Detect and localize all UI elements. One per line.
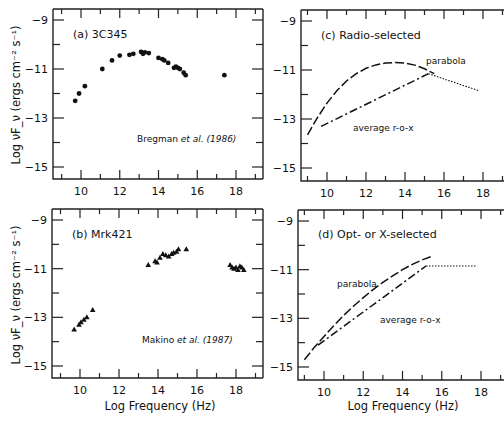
y-tick-label: −15: [273, 162, 296, 175]
y-tick-label: −15: [24, 360, 47, 373]
x-tick-label: 10: [73, 384, 87, 397]
y-tick-label: −13: [25, 112, 48, 125]
average-rox-label: average r-o-x: [353, 123, 414, 133]
data-point: [183, 73, 188, 78]
parabola-curve: [304, 256, 432, 359]
x-tick-label: 16: [435, 386, 449, 399]
x-tick-label: 16: [190, 384, 204, 397]
panel-title: (c) Radio-selected: [321, 29, 421, 42]
x-tick-label: 12: [113, 185, 127, 198]
data-point: [146, 51, 151, 56]
x-tick-label: 14: [398, 187, 412, 200]
y-tick-label: −9: [31, 214, 47, 227]
y-tick-label: −13: [24, 311, 47, 324]
x-tick-label: 12: [112, 384, 126, 397]
data-point: [117, 53, 122, 58]
y-tick-label: −9: [277, 215, 293, 228]
x-tick-label: 16: [437, 187, 451, 200]
x-tick-label: 18: [229, 384, 243, 397]
panel-a-3c345: 1012141618−9−11−13−15(a) 3C345Bregman et…: [25, 9, 263, 198]
x-tick-label: 10: [74, 185, 88, 198]
x-tick-label: 10: [320, 187, 334, 200]
data-point: [166, 60, 171, 65]
y-tick-label: −11: [25, 63, 48, 76]
data-point: [71, 327, 77, 332]
y-tick-label: −13: [273, 113, 296, 126]
x-tick-label: 14: [152, 185, 166, 198]
panel-title: (a) 3C345: [73, 28, 128, 41]
parabola-label: parabola: [426, 56, 466, 66]
x-axis-label-left: Log Frequency (Hz): [105, 399, 216, 413]
panel-c-radio-selected: 1012141618−9−11−13−15(c) Radio-selectedp…: [273, 10, 504, 200]
x-tick-label: 10: [317, 386, 331, 399]
data-point: [82, 84, 87, 89]
data-point: [222, 73, 227, 78]
x-axis-label-right: Log Frequency (Hz): [348, 399, 459, 413]
y-tick-label: −11: [273, 64, 296, 77]
average-rox-line: [318, 266, 426, 345]
y-tick-label: −9: [32, 14, 48, 27]
y-tick-label: −11: [24, 263, 47, 276]
reference-annotation: Makino et al. (1987): [142, 335, 233, 345]
xray-extension-line: [428, 74, 479, 91]
y-tick-label: −15: [25, 161, 48, 174]
x-tick-label: 12: [359, 187, 373, 200]
x-tick-label: 18: [476, 187, 490, 200]
panel-title: (d) Opt- or X-selected: [318, 228, 437, 241]
panel-title: (b) Mrk421: [72, 228, 132, 241]
x-tick-label: 12: [356, 386, 370, 399]
y-tick-label: −11: [270, 264, 293, 277]
data-point: [145, 262, 151, 267]
x-tick-label: 18: [229, 185, 243, 198]
x-tick-label: 14: [151, 384, 165, 397]
data-point: [110, 58, 115, 63]
x-tick-label: 14: [396, 386, 410, 399]
data-point: [177, 67, 182, 72]
y-axis-label-top: Log νF_ν (ergs cm⁻² s⁻¹): [9, 25, 23, 164]
panel-b-mrk421: 1012141618−9−11−13−15(b) Mrk421Makino et…: [24, 209, 263, 397]
sed-figure: Log νF_ν (ergs cm⁻² s⁻¹) Log νF_ν (ergs …: [0, 0, 504, 425]
y-tick-label: −9: [280, 15, 296, 28]
data-point: [84, 314, 90, 319]
data-point: [100, 67, 105, 72]
data-point: [183, 246, 189, 251]
parabola-label: parabola: [337, 279, 377, 289]
data-point: [90, 307, 96, 312]
x-tick-label: 18: [474, 386, 488, 399]
y-axis-label-bottom: Log νF_ν (ergs cm⁻² s⁻¹): [9, 225, 23, 364]
data-point: [131, 51, 136, 56]
y-tick-label: −13: [270, 312, 293, 325]
average-rox-line: [321, 74, 428, 127]
reference-annotation: Bregman et al. (1986): [137, 134, 236, 144]
panel-d-opt-x-selected: 1012141618−9−11−13−15(d) Opt- or X-selec…: [270, 210, 504, 399]
data-point: [73, 98, 78, 103]
data-point: [77, 91, 82, 96]
x-tick-label: 16: [190, 185, 204, 198]
y-tick-label: −15: [270, 361, 293, 374]
average-rox-label: average r-o-x: [380, 315, 441, 325]
